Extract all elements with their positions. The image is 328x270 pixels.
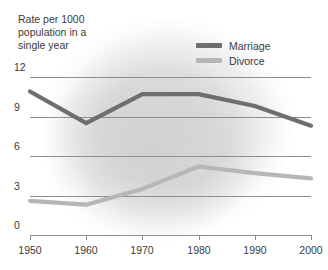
series-line-marriage [30,92,311,126]
chart-plot-area: 036912 195019601970198019902000 [0,0,328,270]
chart-series-layer [0,0,328,270]
series-line-divorce [30,167,311,205]
chart-figure: Rate per 1000 population in a single yea… [0,0,328,270]
